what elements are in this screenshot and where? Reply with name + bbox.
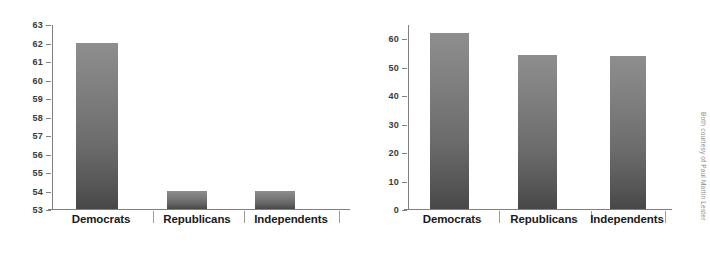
- y-tick-label-right-0: 0: [394, 205, 399, 215]
- x-label-left-republicans: Republicans: [163, 213, 230, 225]
- y-tick-left-1: [46, 192, 51, 193]
- y-tick-label-right-6: 60: [389, 34, 399, 44]
- x-label-right-republicans: Republicans: [510, 213, 577, 225]
- x-separator-left-1: [153, 211, 154, 223]
- y-tick-label-left-9: 62: [33, 39, 43, 49]
- y-tick-left-10: [46, 25, 51, 26]
- y-tick-label-left-1: 54: [33, 187, 43, 197]
- x-label-left-democrats: Democrats: [72, 213, 131, 225]
- chart-zero-based-axis: 0 10 20 30 40 50 60 Democrats Republican…: [360, 0, 680, 253]
- y-tick-label-right-5: 50: [389, 63, 399, 73]
- y-tick-label-left-5: 58: [33, 113, 43, 123]
- y-tick-label-left-0: 53: [33, 205, 43, 215]
- x-separator-right-3: [665, 211, 666, 223]
- x-axis-line-left: [48, 209, 350, 210]
- y-tick-label-right-4: 40: [389, 91, 399, 101]
- y-tick-label-left-7: 60: [33, 76, 43, 86]
- bar-left-republicans: [167, 191, 207, 210]
- y-tick-label-left-3: 56: [33, 150, 43, 160]
- y-tick-label-left-6: 59: [33, 94, 43, 104]
- x-separator-left-2: [244, 211, 245, 223]
- y-tick-right-1: [402, 182, 407, 183]
- y-tick-right-2: [402, 153, 407, 154]
- y-tick-label-left-10: 63: [33, 20, 43, 30]
- plot-area-right: 0 10 20 30 40 50 60 Democrats Republican…: [408, 25, 666, 210]
- y-tick-left-9: [46, 44, 51, 45]
- y-axis-line-right: [408, 25, 409, 210]
- y-tick-right-4: [402, 96, 407, 97]
- x-axis-line-right: [404, 209, 672, 210]
- y-tick-left-7: [46, 81, 51, 82]
- x-label-left-independents: Independents: [254, 213, 328, 225]
- x-separator-left-3: [339, 211, 340, 223]
- y-tick-right-3: [402, 125, 407, 126]
- bar-left-democrats: [76, 43, 118, 210]
- y-tick-left-5: [46, 118, 51, 119]
- y-tick-left-0: [46, 210, 51, 211]
- y-tick-label-right-3: 30: [389, 120, 399, 130]
- x-label-right-independents: Independents: [590, 213, 664, 225]
- y-tick-left-2: [46, 173, 51, 174]
- y-tick-left-3: [46, 155, 51, 156]
- y-tick-label-left-4: 57: [33, 131, 43, 141]
- two-bar-charts-figure: 53 54 55 56 57 58 59 60 61 62 63: [0, 0, 710, 253]
- y-tick-left-4: [46, 136, 51, 137]
- y-tick-right-5: [402, 68, 407, 69]
- x-separator-right-1: [499, 211, 500, 223]
- bar-right-independents: [610, 56, 646, 209]
- y-tick-right-6: [402, 39, 407, 40]
- y-tick-label-right-2: 20: [389, 148, 399, 158]
- x-label-right-democrats: Democrats: [423, 213, 482, 225]
- chart-truncated-axis: 53 54 55 56 57 58 59 60 61 62 63: [0, 0, 360, 253]
- y-tick-left-8: [46, 62, 51, 63]
- y-tick-label-left-2: 55: [33, 168, 43, 178]
- bar-right-democrats: [430, 33, 469, 209]
- y-axis-line-left: [52, 25, 53, 210]
- y-tick-label-right-1: 10: [389, 177, 399, 187]
- y-tick-left-6: [46, 99, 51, 100]
- y-tick-label-left-8: 61: [33, 57, 43, 67]
- image-credit: Both courtesy of Paul Martin Lester: [700, 112, 707, 221]
- bar-left-independents: [255, 191, 295, 210]
- bar-right-republicans: [518, 55, 557, 209]
- y-tick-right-0: [402, 210, 407, 211]
- plot-area-left: 53 54 55 56 57 58 59 60 61 62 63: [52, 25, 344, 210]
